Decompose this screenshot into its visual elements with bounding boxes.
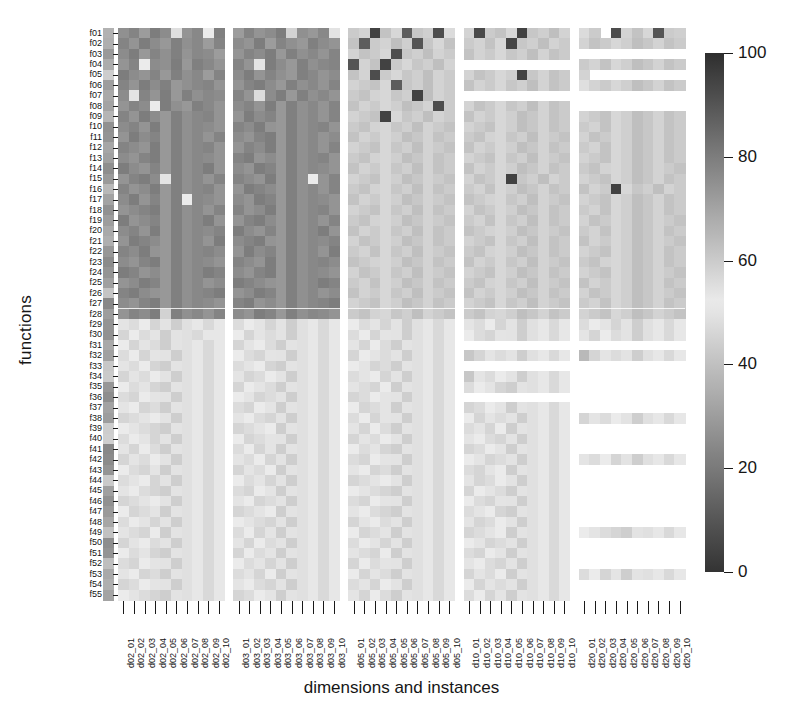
heatmap-cell — [653, 163, 664, 174]
heatmap-cell — [265, 444, 276, 455]
heatmap-cell — [139, 111, 150, 122]
heatmap-cell — [192, 246, 203, 257]
heatmap-cell — [632, 319, 643, 330]
heatmap-cell — [276, 569, 287, 580]
heatmap-cell — [171, 226, 182, 237]
heatmap-cell — [653, 153, 664, 164]
heatmap-cell — [664, 205, 675, 216]
heatmap-cell — [621, 132, 632, 143]
heatmap-cell — [402, 538, 413, 549]
heatmap-cell — [495, 475, 506, 486]
heatmap-cell — [265, 579, 276, 590]
heatmap-cell — [380, 579, 391, 590]
heatmap-cell — [474, 298, 485, 309]
heatmap-cell — [129, 309, 140, 320]
heatmap-cell — [579, 330, 590, 341]
column-label: d10_03 — [494, 638, 503, 668]
heatmap-cell — [265, 174, 276, 185]
heatmap-cell — [402, 59, 413, 70]
heatmap-cell — [265, 309, 276, 320]
heatmap-cell — [464, 350, 475, 361]
heatmap-cell — [433, 382, 444, 393]
heatmap-cell — [182, 142, 193, 153]
heatmap-cell — [370, 153, 381, 164]
heatmap-cell — [674, 132, 685, 143]
heatmap-cell — [308, 153, 319, 164]
heatmap-cell — [391, 184, 402, 195]
heatmap-cell — [538, 236, 549, 247]
heatmap-cell — [485, 278, 496, 289]
heatmap-cell — [621, 319, 632, 330]
heatmap-cell — [674, 319, 685, 330]
heatmap-cell — [265, 423, 276, 434]
heatmap-cell — [495, 330, 506, 341]
heatmap-cell — [348, 90, 359, 101]
heatmap-cell — [589, 569, 600, 580]
heatmap-grid[interactable] — [118, 28, 685, 600]
heatmap-cell — [506, 142, 517, 153]
heatmap-cell — [474, 413, 485, 424]
heatmap-cell — [611, 174, 622, 185]
heatmap-cell — [444, 70, 455, 81]
heatmap-cell — [632, 257, 643, 268]
heatmap-cell — [192, 454, 203, 465]
heatmap-cell — [297, 371, 308, 382]
heatmap-cell — [464, 246, 475, 257]
heatmap-cell — [160, 278, 171, 289]
heatmap-cell — [444, 215, 455, 226]
heatmap-cell — [129, 278, 140, 289]
heatmap-cell — [412, 215, 423, 226]
heatmap-cell — [286, 402, 297, 413]
heatmap-cell — [139, 174, 150, 185]
heatmap-cell — [192, 122, 203, 133]
heatmap-cell — [286, 475, 297, 486]
heatmap-cell — [233, 340, 244, 351]
heatmap-cell — [203, 163, 214, 174]
heatmap-cell — [359, 184, 370, 195]
heatmap-cell — [359, 350, 370, 361]
heatmap-cell — [129, 142, 140, 153]
heatmap-cell — [527, 49, 538, 60]
heatmap-cell — [276, 298, 287, 309]
heatmap-cell — [348, 278, 359, 289]
heatmap-cell — [485, 402, 496, 413]
heatmap-cell — [276, 215, 287, 226]
heatmap-cell — [348, 38, 359, 49]
heatmap-cell — [391, 49, 402, 60]
heatmap-cell — [118, 101, 129, 112]
heatmap-cell — [308, 548, 319, 559]
heatmap-cell — [192, 569, 203, 580]
heatmap-cell — [423, 111, 434, 122]
column-tick — [627, 601, 628, 614]
heatmap-cell — [214, 413, 225, 424]
heatmap-cell — [527, 215, 538, 226]
heatmap-cell — [517, 142, 528, 153]
heatmap-cell — [653, 319, 664, 330]
heatmap-cell — [265, 371, 276, 382]
heatmap-cell — [329, 59, 340, 70]
heatmap-cell — [643, 38, 654, 49]
heatmap-cell — [559, 486, 570, 497]
heatmap-cell — [171, 444, 182, 455]
heatmap-cell — [203, 28, 214, 39]
heatmap-cell — [359, 111, 370, 122]
heatmap-cell — [254, 402, 265, 413]
heatmap-cell — [160, 267, 171, 278]
heatmap-cell — [506, 569, 517, 580]
heatmap-cell — [495, 288, 506, 299]
heatmap-cell — [464, 558, 475, 569]
heatmap-cell — [433, 70, 444, 81]
heatmap-cell — [129, 538, 140, 549]
row-label: f35 — [89, 382, 102, 391]
heatmap-cell — [485, 267, 496, 278]
heatmap-cell — [171, 288, 182, 299]
heatmap-cell — [402, 590, 413, 601]
heatmap-cell — [579, 59, 590, 70]
heatmap-cell — [233, 558, 244, 569]
heatmap-cell — [380, 590, 391, 601]
heatmap-cell — [348, 28, 359, 39]
heatmap-cell — [412, 267, 423, 278]
heatmap-cell — [380, 184, 391, 195]
heatmap-cell — [203, 413, 214, 424]
heatmap-cell — [182, 226, 193, 237]
